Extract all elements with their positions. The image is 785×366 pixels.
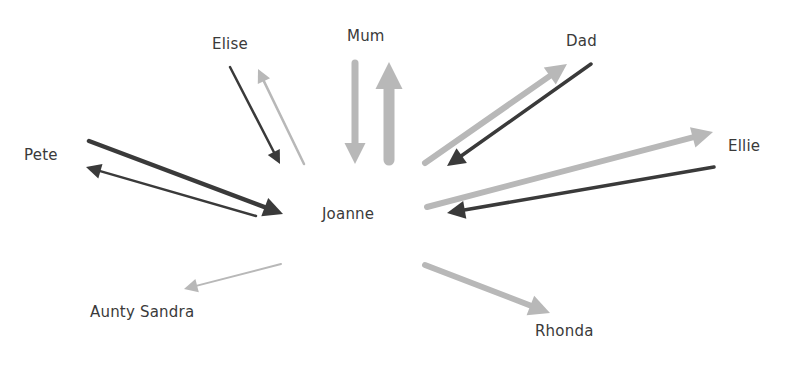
- arrow-joanne-to-rhonda: [425, 265, 550, 315]
- relationship-diagram: Joanne Mum Elise Dad Pete Ellie Aunty Sa…: [0, 0, 785, 366]
- node-mum: Mum: [347, 27, 385, 45]
- arrow-shaft: [230, 67, 275, 154]
- node-aunty-sandra: Aunty Sandra: [90, 303, 194, 321]
- arrow-joanne-to-elise: [258, 69, 304, 164]
- node-center-joanne: Joanne: [322, 205, 374, 223]
- node-dad: Dad: [566, 32, 597, 50]
- node-elise: Elise: [212, 35, 248, 53]
- arrowhead-icon: [345, 143, 366, 164]
- arrow-shaft: [460, 64, 591, 157]
- arrow-joanne-to-aunty-sandra: [184, 264, 281, 292]
- arrow-shaft: [425, 75, 551, 163]
- arrow-joanne-to-ellie: [427, 127, 713, 207]
- arrow-shaft: [425, 265, 532, 306]
- arrow-joanne-to-mum: [376, 62, 403, 160]
- arrowhead-icon: [690, 127, 713, 147]
- arrow-joanne-to-dad: [425, 64, 567, 163]
- node-ellie: Ellie: [728, 137, 760, 155]
- arrow-shaft: [427, 137, 695, 207]
- arrow-dad-to-joanne: [447, 64, 591, 166]
- arrowhead-icon: [376, 62, 403, 89]
- arrowhead-icon: [447, 148, 467, 166]
- node-pete: Pete: [24, 146, 58, 164]
- arrow-shaft: [195, 264, 281, 286]
- arrow-pete-to-joanne: [89, 141, 283, 216]
- arrowhead-icon: [184, 279, 199, 292]
- arrow-mum-to-joanne: [345, 63, 366, 164]
- node-rhonda: Rhonda: [535, 322, 594, 340]
- arrow-elise-to-joanne: [230, 67, 280, 164]
- arrowhead-icon: [86, 164, 103, 179]
- arrow-shaft: [263, 79, 304, 164]
